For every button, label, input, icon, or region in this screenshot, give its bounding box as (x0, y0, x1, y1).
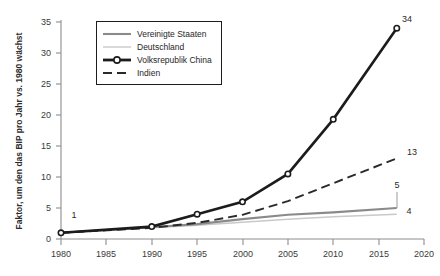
annotation-start-value: 1 (71, 210, 76, 220)
legend-label: Vereinigte Staaten (137, 29, 206, 39)
y-tick-label: 15 (41, 141, 51, 151)
series-marker (285, 171, 290, 176)
x-tick-label: 2015 (369, 249, 389, 259)
series-marker (194, 212, 199, 217)
legend-item-volksrepublik-china: Volksrepublik China (102, 53, 215, 66)
legend-item-indien: Indien (102, 66, 215, 79)
y-tick-label: 5 (46, 203, 51, 213)
annotation-china-end-value: 34 (402, 14, 412, 24)
series-marker (240, 199, 245, 204)
x-tick-label: 2005 (278, 249, 298, 259)
x-tick-label: 1990 (142, 249, 162, 259)
chart-legend: Vereinigte Staaten Deutschland Volksrepu… (96, 21, 222, 85)
legend-swatch-thin-solid-icon (102, 41, 132, 53)
legend-label: Volksrepublik China (137, 55, 212, 65)
y-tick-label: 25 (41, 79, 51, 89)
y-axis-ticks: 0 5 10 15 20 25 30 35 (41, 17, 61, 244)
legend-swatch-solid-icon (102, 28, 132, 40)
legend-swatch-marker-line-icon (102, 54, 132, 66)
series-marker (394, 26, 399, 31)
x-axis-ticks: 1980 1985 1990 1995 2000 2005 2010 2015 … (51, 239, 434, 259)
annotation-germany-end-value: 4 (406, 206, 411, 216)
legend-item-vereinigte-staaten: Vereinigte Staaten (102, 27, 215, 40)
y-tick-label: 20 (41, 110, 51, 120)
x-tick-label: 2010 (323, 249, 343, 259)
x-tick-label: 2020 (414, 249, 434, 259)
series-marker (149, 224, 154, 229)
chart-figure: Faktor, um den das BIP pro Jahr vs. 1980… (0, 0, 440, 276)
y-tick-label: 10 (41, 172, 51, 182)
legend-label: Deutschland (137, 42, 184, 52)
series-marker (58, 230, 63, 235)
legend-swatch-dashed-icon (102, 67, 132, 79)
series-marker (331, 117, 336, 122)
x-tick-label: 1985 (96, 249, 116, 259)
annotation-us-end-value: 5 (394, 180, 399, 190)
x-tick-label: 1980 (51, 249, 71, 259)
y-axis-title: Faktor, um den das BIP pro Jahr vs. 1980… (14, 32, 24, 229)
x-tick-label: 2000 (233, 249, 253, 259)
x-tick-label: 1995 (187, 249, 207, 259)
y-tick-label: 35 (41, 17, 51, 27)
legend-label: Indien (137, 68, 160, 78)
y-tick-label: 0 (46, 234, 51, 244)
annotation-india-end-value: 13 (407, 147, 417, 157)
legend-item-deutschland: Deutschland (102, 40, 215, 53)
y-tick-label: 30 (41, 48, 51, 58)
